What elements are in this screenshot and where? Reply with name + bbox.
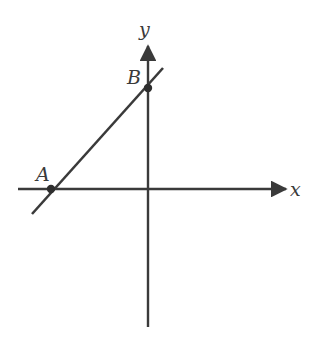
point-A [47, 185, 55, 193]
x-axis-label: x [290, 178, 301, 200]
point-B [144, 84, 152, 92]
y-axis-label: y [138, 18, 150, 40]
point-B-label: B [126, 66, 141, 88]
coordinate-diagram: y x A B [0, 0, 321, 343]
point-A-label: A [34, 163, 50, 185]
